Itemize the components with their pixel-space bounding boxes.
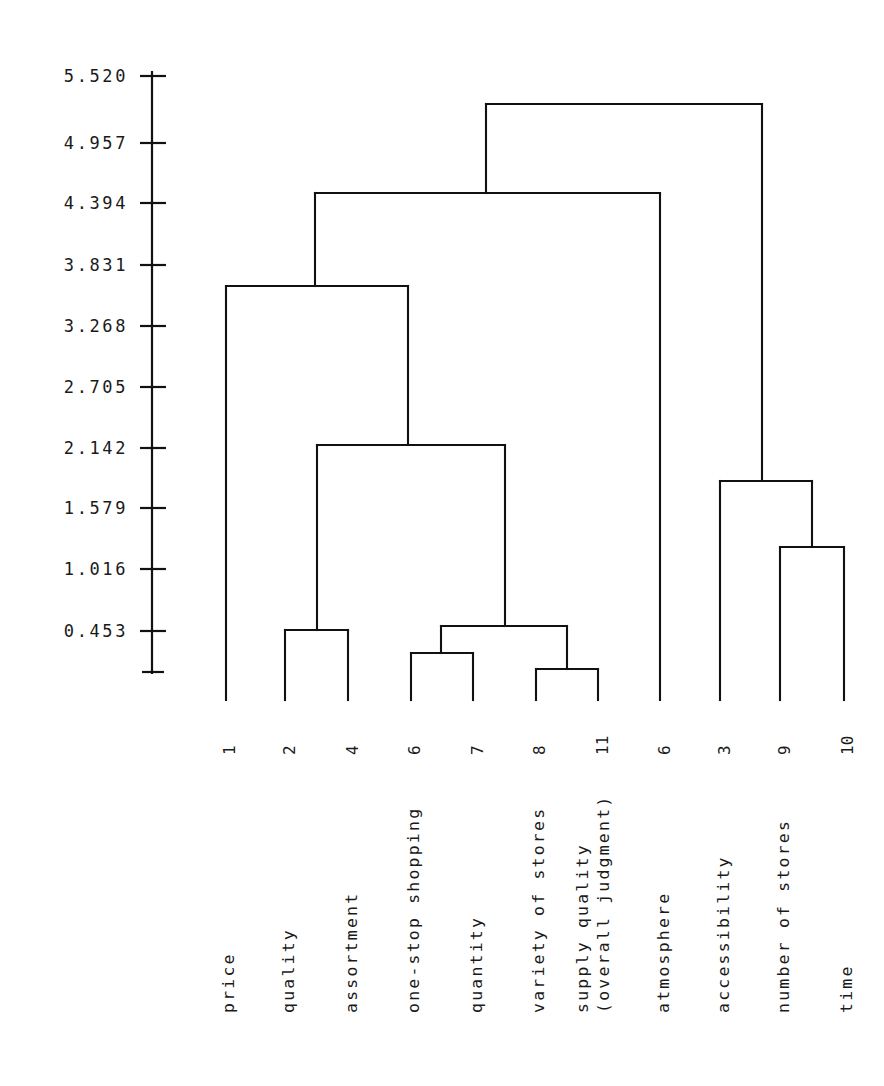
leaf-number-6b: 6 xyxy=(655,745,674,755)
leaf-label-atmosphere: atmosphere xyxy=(654,892,673,1013)
leaf-label-supply-quality-group: supply quality (overall judgment) xyxy=(572,795,614,1013)
dendrogram-canvas xyxy=(0,0,884,1086)
y-axis-tick-label: 4.957 xyxy=(40,133,128,153)
leaf-number-1: 1 xyxy=(220,745,239,755)
dendrogram-links xyxy=(226,104,844,700)
leaf-number-3: 3 xyxy=(715,745,734,755)
leaf-label-supply-quality-subtitle: (overall judgment) xyxy=(593,795,614,1013)
dendrogram-chart: 5.520 4.957 4.394 3.831 3.268 2.705 2.14… xyxy=(0,0,884,1086)
y-axis-tick-label: 2.142 xyxy=(40,438,128,458)
leaf-label-variety-of-stores: variety of stores xyxy=(529,807,548,1013)
y-axis-tick-label: 4.394 xyxy=(40,193,128,213)
leaf-number-7: 7 xyxy=(468,745,487,755)
y-axis-tick-label: 3.831 xyxy=(40,255,128,275)
leaf-label-number-of-stores: number of stores xyxy=(774,819,793,1013)
leaf-label-one-stop-shopping: one-stop shopping xyxy=(404,807,423,1013)
leaf-label-supply-quality: supply quality xyxy=(572,795,593,1013)
leaf-label-assortment: assortment xyxy=(342,892,361,1013)
leaf-label-quality: quality xyxy=(279,928,298,1013)
leaf-number-9: 9 xyxy=(775,745,794,755)
leaf-number-4: 4 xyxy=(343,745,362,755)
leaf-number-11: 11 xyxy=(593,736,612,755)
y-axis xyxy=(140,71,166,674)
leaf-label-price: price xyxy=(219,952,238,1013)
y-axis-tick-label: 5.520 xyxy=(40,66,128,86)
leaf-number-10: 10 xyxy=(838,736,857,755)
leaf-number-2: 2 xyxy=(280,745,299,755)
leaf-label-accessibility: accessibility xyxy=(714,855,733,1013)
y-axis-tick-label: 1.016 xyxy=(40,559,128,579)
y-axis-tick-label: 3.268 xyxy=(40,316,128,336)
leaf-number-8: 8 xyxy=(530,745,549,755)
y-axis-tick-label: 2.705 xyxy=(40,377,128,397)
leaf-number-6: 6 xyxy=(405,745,424,755)
leaf-label-quantity: quantity xyxy=(467,916,486,1013)
y-axis-tick-label: 0.453 xyxy=(40,621,128,641)
leaf-label-time: time xyxy=(837,964,856,1013)
y-axis-tick-label: 1.579 xyxy=(40,498,128,518)
